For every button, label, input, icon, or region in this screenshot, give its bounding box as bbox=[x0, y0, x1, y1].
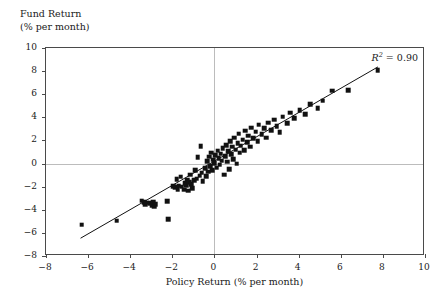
data-point-marker bbox=[220, 158, 225, 163]
y-axis-tick-label: −2 bbox=[11, 181, 37, 191]
y-axis-tick-label: −4 bbox=[11, 204, 37, 214]
y-axis-tick bbox=[42, 71, 46, 72]
r-squared-value: = 0.90 bbox=[383, 52, 418, 63]
r-squared-symbol: R bbox=[372, 52, 379, 63]
y-axis-tick-label: 8 bbox=[11, 65, 37, 75]
x-axis-tick-label: −6 bbox=[72, 262, 102, 272]
data-point-marker bbox=[195, 155, 200, 160]
y-axis-tick bbox=[42, 210, 46, 211]
y-axis-title-line-1: Fund Return bbox=[20, 8, 90, 21]
data-point-marker bbox=[285, 121, 290, 126]
data-point-marker bbox=[321, 98, 326, 103]
y-axis-tick-label: 10 bbox=[11, 42, 37, 52]
x-axis-tick-label: 6 bbox=[325, 262, 355, 272]
data-point-marker bbox=[223, 154, 228, 159]
data-point-marker bbox=[375, 68, 380, 73]
data-point-marker bbox=[190, 186, 195, 191]
x-axis-tick-label: 8 bbox=[367, 262, 397, 272]
data-point-marker bbox=[277, 130, 282, 135]
data-point-marker bbox=[303, 112, 308, 117]
data-point-marker bbox=[248, 145, 253, 150]
data-point-marker bbox=[198, 144, 203, 149]
x-axis-tick bbox=[46, 254, 47, 258]
data-point-marker bbox=[308, 102, 313, 107]
data-point-marker bbox=[217, 162, 222, 167]
data-point-marker bbox=[253, 129, 258, 134]
data-point-marker bbox=[236, 131, 241, 136]
x-axis-tick bbox=[383, 254, 384, 258]
data-point-marker bbox=[315, 106, 320, 111]
y-axis-tick-label: 6 bbox=[11, 88, 37, 98]
data-point-marker bbox=[243, 128, 248, 133]
x-axis-tick bbox=[130, 254, 131, 258]
data-point-marker bbox=[346, 88, 351, 93]
scatter-chart-figure: Fund Return (% per month) R2 = 0.90 −8−6… bbox=[0, 0, 441, 300]
data-point-marker bbox=[79, 223, 84, 228]
data-point-marker bbox=[234, 161, 239, 166]
x-axis-tick-label: 4 bbox=[283, 262, 313, 272]
y-axis-tick-label: −8 bbox=[11, 250, 37, 260]
data-point-marker bbox=[225, 160, 230, 165]
data-point-marker bbox=[264, 135, 269, 140]
y-axis-tick bbox=[42, 117, 46, 118]
x-axis-tick bbox=[88, 254, 89, 258]
y-axis-tick-label: 4 bbox=[11, 111, 37, 121]
data-point-marker bbox=[274, 124, 279, 129]
data-point-marker bbox=[232, 135, 237, 140]
x-axis-tick-label: −8 bbox=[30, 262, 60, 272]
data-point-marker bbox=[330, 88, 335, 93]
data-point-marker bbox=[193, 168, 198, 173]
data-point-marker bbox=[292, 116, 297, 121]
x-axis-tick bbox=[257, 254, 258, 258]
data-point-marker bbox=[166, 217, 171, 222]
data-point-marker bbox=[272, 117, 277, 122]
data-point-marker bbox=[201, 179, 206, 184]
x-axis-tick bbox=[425, 254, 426, 258]
data-point-marker bbox=[262, 126, 267, 131]
x-axis-tick-label: 0 bbox=[198, 262, 228, 272]
data-point-marker bbox=[288, 110, 293, 115]
data-point-marker bbox=[178, 175, 183, 180]
data-point-marker bbox=[205, 159, 210, 164]
x-axis-tick bbox=[299, 254, 300, 258]
data-point-marker bbox=[114, 218, 119, 223]
data-point-marker bbox=[153, 202, 158, 207]
data-point-marker bbox=[281, 114, 286, 119]
y-axis-tick bbox=[42, 164, 46, 165]
y-axis-tick bbox=[42, 94, 46, 95]
y-axis-title: Fund Return (% per month) bbox=[20, 8, 90, 33]
y-axis-tick bbox=[42, 140, 46, 141]
plot-area: R2 = 0.90 bbox=[45, 47, 424, 255]
x-axis-tick-label: 10 bbox=[409, 262, 439, 272]
data-point-marker bbox=[255, 139, 260, 144]
r-squared-annotation: R2 = 0.90 bbox=[372, 51, 418, 63]
x-axis-tick bbox=[341, 254, 342, 258]
data-point-marker bbox=[246, 134, 251, 139]
y-axis-tick-label: −6 bbox=[11, 227, 37, 237]
data-point-marker bbox=[256, 123, 261, 128]
data-point-marker bbox=[188, 172, 193, 177]
data-point-marker bbox=[297, 108, 302, 113]
data-point-marker bbox=[204, 174, 209, 179]
data-point-marker bbox=[165, 199, 170, 204]
x-axis-tick bbox=[214, 254, 215, 258]
x-axis-title: Policy Return (% per month) bbox=[45, 276, 424, 287]
y-axis-tick-label: 0 bbox=[11, 158, 37, 168]
y-axis-title-line-2: (% per month) bbox=[20, 21, 90, 34]
y-axis-tick bbox=[42, 187, 46, 188]
y-axis-tick-label: 2 bbox=[11, 134, 37, 144]
x-axis-tick-label: 2 bbox=[241, 262, 271, 272]
data-point-marker bbox=[266, 120, 271, 125]
y-axis-tick bbox=[42, 48, 46, 49]
data-point-marker bbox=[227, 167, 232, 172]
x-axis-tick-label: −4 bbox=[114, 262, 144, 272]
y-axis-tick bbox=[42, 233, 46, 234]
x-axis-tick bbox=[172, 254, 173, 258]
data-point-marker bbox=[269, 128, 274, 133]
data-point-marker bbox=[222, 172, 227, 177]
x-axis-tick-label: −2 bbox=[156, 262, 186, 272]
data-point-marker bbox=[224, 143, 229, 148]
data-point-marker bbox=[242, 148, 247, 153]
